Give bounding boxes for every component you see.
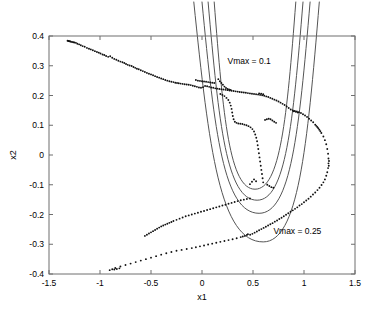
contour-annotation-1: Vmax = 0.1 [228,56,272,66]
scatter-point [282,103,284,105]
scatter-point [272,187,274,189]
scatter-point [218,206,220,208]
scatter-point [154,75,156,77]
scatter-point [235,90,237,92]
scatter-point [102,53,104,55]
x-tick-label: 1.5 [349,278,361,288]
scatter-point [107,56,109,58]
scatter-point [241,123,243,125]
scatter-point [221,205,223,207]
scatter-point [271,120,273,122]
scatter-point [232,115,234,117]
scatter-point [69,40,71,42]
scatter-point [100,53,102,55]
scatter-point [273,99,275,101]
scatter-point [198,87,200,89]
scatter-point [239,123,241,125]
x-tick-label: -0.5 [144,278,159,288]
scatter-point [271,98,273,100]
scatter-point [109,269,111,271]
scatter-point [255,93,257,95]
scatter-point [219,93,221,95]
scatter-point [230,89,232,91]
scatter-point [212,87,214,89]
scatter-point [242,236,244,238]
scatter-point [231,112,233,114]
scatter-point [237,91,239,93]
scatter-point [274,221,276,223]
label-group: -1.5-1-0.500.511.5-0.4-0.3-0.2-0.100.10.… [8,31,361,302]
scatter-point [170,221,172,223]
scatter-point [150,231,152,233]
scatter-point [314,192,316,194]
scatter-point [233,90,235,92]
scatter-point [233,118,235,120]
y-tick-label: -0.2 [29,210,44,220]
scatter-point [174,82,176,84]
scatter-point [259,161,261,163]
scatter-point [250,126,252,128]
scatter-point [154,229,156,231]
scatter-point [254,134,256,136]
scatter-point [96,51,98,53]
scatter-point [146,72,148,74]
scatter-point [237,200,239,202]
scatter-point [292,209,294,211]
scatter-point [262,177,264,179]
scatter-point [211,243,213,245]
scatter-point [228,203,230,205]
contour-annotation-2: Vmax = 0.25 [273,226,321,236]
scatter-point [247,92,249,94]
scatter-point [156,228,158,230]
scatter-point [255,180,257,182]
scatter-point [216,88,218,90]
scatter-point [222,89,224,91]
scatter-point [258,152,260,154]
scatter-point [260,169,262,171]
scatter-point [320,132,322,134]
scatter-point [217,78,219,80]
scatter-point [218,88,220,90]
scatter-point [263,227,265,229]
scatter-point [310,120,312,122]
scatter-point [325,143,327,145]
scatter-point [225,204,227,206]
scatter-point [262,93,264,95]
scatter-point [166,80,168,82]
scatter-point [195,246,197,248]
scatter-point [162,225,164,227]
scatter-point [251,181,253,183]
scatter-point [210,87,212,89]
scatter-point [203,81,205,83]
scatter-point [205,81,207,83]
scatter-point [202,86,204,88]
scatter-point [119,266,121,268]
scatter-point [165,252,167,254]
scatter-point [278,218,280,220]
scatter-point [269,97,271,99]
scatter-point [166,223,168,225]
scatter-point [119,61,121,63]
scatter-point [130,263,132,265]
scatter-point [113,58,115,60]
scatter-point [256,231,258,233]
scatter-point [196,86,198,88]
scatter-point [310,196,312,198]
scatter-point [322,181,324,183]
scatter-point [265,226,267,228]
scatter-point [190,84,192,86]
scatter-point [257,148,259,150]
scatter-point [249,197,251,199]
scatter-point [225,89,227,91]
scatter-point [111,57,113,59]
scatter-point [249,234,251,236]
scatter-point [244,235,246,237]
scatter-point [144,71,146,73]
scatter-point [160,78,162,80]
scatter-point [226,97,228,99]
scatter-point [134,67,136,69]
scatter-point [76,43,78,45]
scatter-point [276,220,278,222]
scatter-point [236,122,238,124]
scatter-point [118,267,120,269]
